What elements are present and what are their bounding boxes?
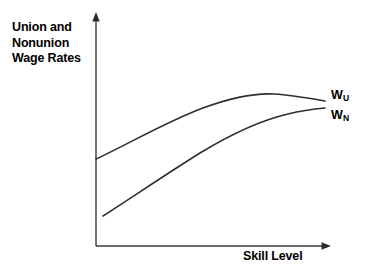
series-label-union-base: W [331, 88, 343, 102]
x-axis-title: Skill Level [243, 249, 303, 265]
series-label-nonunion-base: W [331, 108, 343, 122]
series-label-union: WU [331, 88, 349, 102]
series-label-union-subscript: U [343, 93, 349, 103]
series-label-nonunion: WN [331, 108, 349, 122]
curve-union-wage [96, 94, 325, 159]
curve-nonunion-wage [103, 108, 325, 216]
y-axis-title: Union andNonunionWage Rates [12, 20, 96, 67]
wage-rates-chart-figure: Union andNonunionWage Rates Skill Level … [0, 0, 377, 271]
series-label-nonunion-subscript: N [343, 113, 349, 123]
x-axis-arrow-icon [322, 242, 332, 249]
